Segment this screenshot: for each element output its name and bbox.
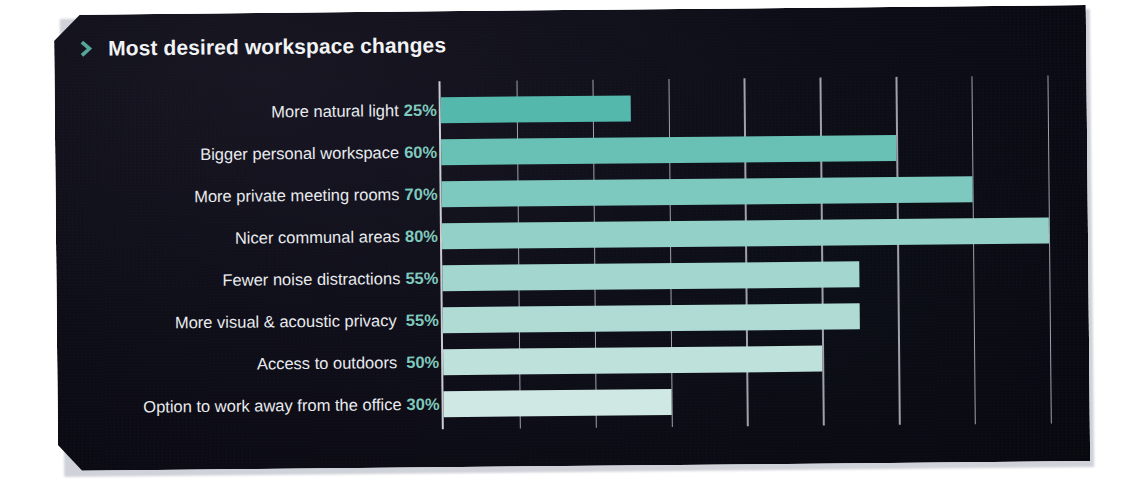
bar-row	[442, 251, 1064, 299]
category-label: More visual & acoustic privacy55%	[175, 311, 439, 333]
bar	[441, 176, 972, 207]
page-title: Most desired workspace changes	[108, 33, 446, 60]
screenshot-root: Most desired workspace changes More natu…	[0, 0, 1146, 500]
card-header: Most desired workspace changes	[80, 33, 446, 61]
category-name: Bigger personal workspace	[200, 143, 399, 163]
value-label: 50%	[406, 353, 439, 371]
infographic-card: Most desired workspace changes More natu…	[54, 5, 1090, 471]
category-name: Nicer communal areas	[235, 227, 400, 247]
category-name: More natural light	[271, 101, 399, 120]
value-label: 60%	[404, 143, 437, 161]
bar	[443, 389, 671, 417]
value-label: 70%	[404, 185, 437, 203]
bar	[443, 346, 822, 376]
value-label: 55%	[406, 311, 439, 329]
category-label: Option to work away from the office30%	[143, 395, 440, 417]
bar	[443, 303, 860, 333]
bar-row	[443, 377, 1065, 425]
bar-row	[441, 167, 1063, 215]
category-label: More private meeting rooms70%	[194, 185, 438, 206]
value-label: 30%	[406, 395, 439, 413]
category-label: Bigger personal workspace60%	[200, 143, 437, 164]
chevron-right-icon	[80, 39, 96, 59]
category-name: Fewer noise distractions	[222, 269, 400, 289]
category-name: Option to work away from the office	[143, 395, 401, 415]
bar	[442, 261, 859, 291]
value-label: 80%	[405, 227, 438, 245]
bar-row	[441, 125, 1063, 173]
category-name: More visual & acoustic privacy	[175, 311, 397, 331]
bar	[441, 135, 896, 165]
bar-chart: More natural light25% Bigger personal wo…	[81, 75, 1064, 444]
value-label: 55%	[405, 269, 438, 287]
bar	[442, 217, 1049, 249]
bar-series	[441, 83, 1066, 425]
value-label: 25%	[404, 101, 437, 119]
bar-row	[442, 209, 1064, 257]
category-label: Access to outdoors50%	[257, 353, 440, 374]
bar-row	[441, 83, 1063, 131]
category-label: Nicer communal areas80%	[235, 227, 438, 248]
category-label: More natural light25%	[271, 101, 437, 122]
plot-area	[438, 75, 1065, 429]
category-label: Fewer noise distractions55%	[222, 269, 438, 290]
bar	[441, 95, 631, 123]
category-name: More private meeting rooms	[194, 185, 400, 205]
category-name: Access to outdoors	[257, 353, 397, 372]
bar-row	[443, 293, 1065, 341]
bar-row	[443, 335, 1065, 383]
